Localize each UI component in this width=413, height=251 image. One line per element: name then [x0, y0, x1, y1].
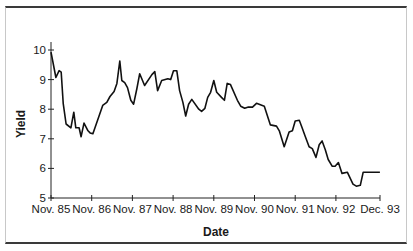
x-tick-label: Nov. 89 [194, 203, 233, 215]
y-tick-label: 7 [40, 133, 46, 145]
x-tick-label: Nov. 90 [235, 203, 274, 215]
x-tick-label: Nov. 85 [32, 203, 71, 215]
y-axis-title: Yield [14, 110, 28, 138]
x-tick-label: Nov. 92 [317, 203, 356, 215]
axes [51, 42, 380, 198]
x-tick-label: Nov. 91 [276, 203, 315, 215]
series-lines [51, 52, 380, 186]
x-tick-label: Nov. 87 [113, 203, 152, 215]
x-tick-label: Nov. 86 [72, 203, 111, 215]
x-axis-title: Date [203, 225, 229, 239]
y-tick-label: 8 [40, 103, 46, 115]
yield-line-chart: 5678910 Nov. 85Nov. 86Nov. 87Nov. 88Nov.… [0, 0, 413, 251]
y-tick-label: 10 [33, 44, 46, 56]
x-tick-label: Dec. 93 [360, 203, 400, 215]
x-tick-label: Nov. 88 [154, 203, 193, 215]
y-tick-label: 6 [40, 162, 46, 174]
y-tick-label: 9 [40, 74, 46, 86]
series-line-yield [51, 52, 380, 186]
